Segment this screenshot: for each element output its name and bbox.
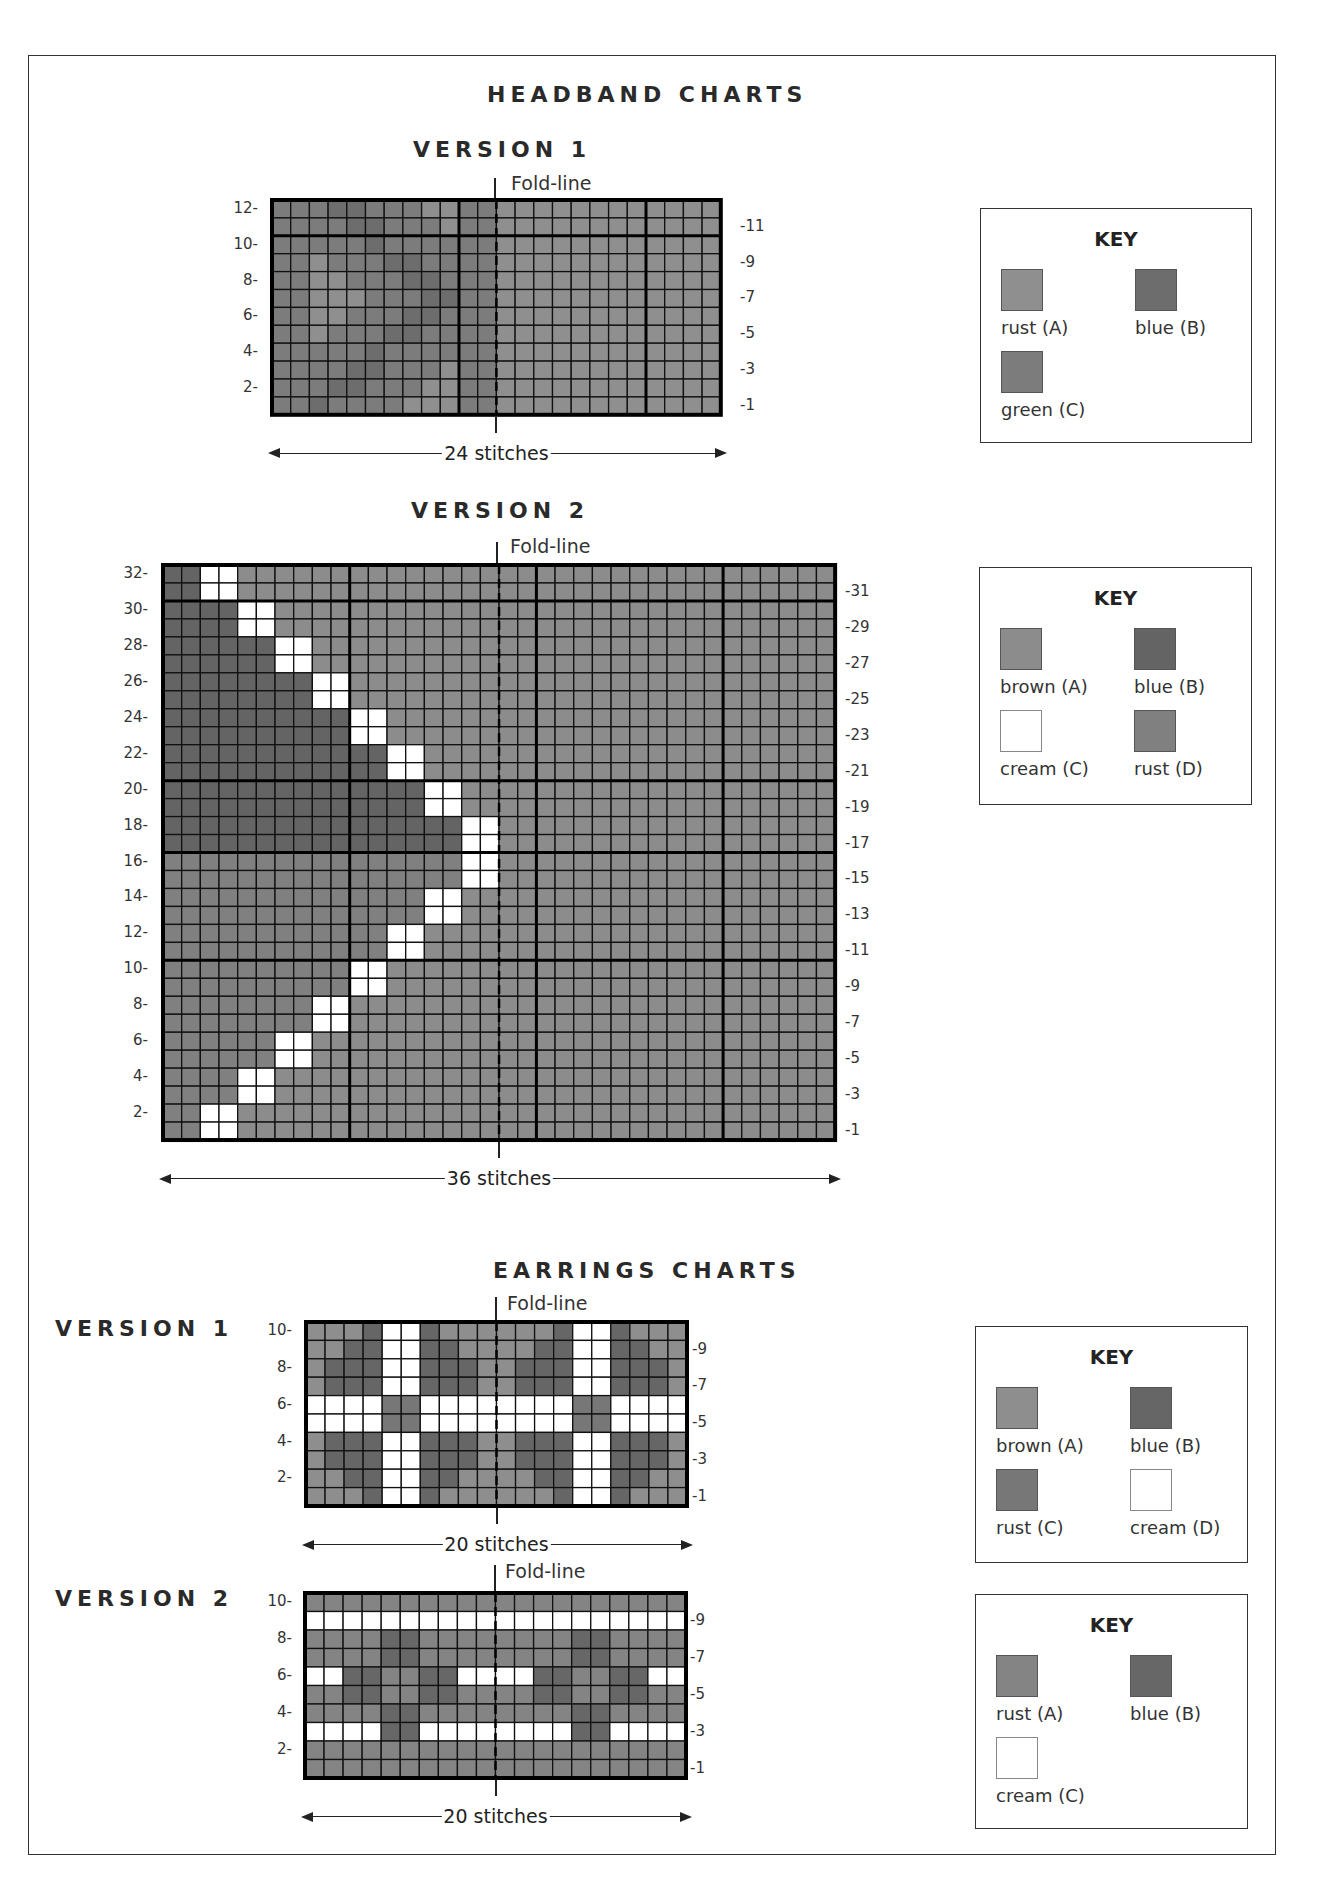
stitch-cell <box>816 996 835 1014</box>
stitch-cell <box>555 655 574 673</box>
stitch-cell <box>574 1032 593 1050</box>
stitch-cell <box>443 942 462 960</box>
stitch-cell <box>362 1667 381 1686</box>
stitch-cell <box>648 835 667 853</box>
stitch-cell <box>477 1488 496 1506</box>
stitch-cell <box>462 870 481 888</box>
stitch-cell <box>779 727 798 745</box>
stitch-cell <box>424 835 443 853</box>
stitch-cell <box>294 619 313 637</box>
stitch-cell <box>331 691 350 709</box>
stitch-cell <box>611 1340 630 1358</box>
stitch-cell <box>816 1032 835 1050</box>
stitch-cell <box>350 781 369 799</box>
stitch-cell <box>480 853 499 871</box>
stitch-cell <box>366 361 385 379</box>
stitch-cell <box>256 673 275 691</box>
stitch-cell <box>499 870 518 888</box>
stitch-cell <box>275 1068 294 1086</box>
swatch-label: blue (B) <box>1130 1703 1201 1724</box>
stitch-cell <box>306 1377 325 1395</box>
stitch-cell <box>424 565 443 583</box>
stitch-cell <box>518 673 537 691</box>
stitch-cell <box>574 781 593 799</box>
stitch-cell <box>667 1741 686 1760</box>
stitch-cell <box>683 361 702 379</box>
stitch-cell <box>424 853 443 871</box>
stitch-cell <box>275 781 294 799</box>
stitch-cell <box>462 781 481 799</box>
stitch-cell <box>592 1359 611 1377</box>
stitch-cell <box>368 619 387 637</box>
stitch-cell <box>200 799 219 817</box>
stitch-cell <box>462 727 481 745</box>
stitch-cell <box>306 1396 325 1414</box>
stitch-cell <box>403 236 422 254</box>
stitch-cell <box>648 673 667 691</box>
stitch-cell <box>536 565 555 583</box>
stitch-cell <box>387 781 406 799</box>
stitch-cell <box>384 200 403 218</box>
stitch-cell <box>291 397 310 415</box>
stitch-cell <box>592 853 611 871</box>
stitch-cell <box>590 218 609 236</box>
row-number-label: -5 <box>690 1685 705 1703</box>
stitch-cell <box>686 583 705 601</box>
stitch-cell <box>256 906 275 924</box>
color-swatch <box>1001 269 1043 311</box>
stitch-cell <box>163 924 182 942</box>
stitch-cell <box>238 637 257 655</box>
stitch-cell <box>478 200 497 218</box>
stitch-cell <box>238 870 257 888</box>
stitch-cell <box>798 763 817 781</box>
stitch-cell <box>347 343 366 361</box>
stitch-cell <box>592 799 611 817</box>
stitch-cell <box>518 870 537 888</box>
stitch-cell <box>686 924 705 942</box>
stitch-cell <box>422 325 441 343</box>
stitch-cell <box>610 1741 629 1760</box>
stitch-cell <box>443 799 462 817</box>
stitch-cell <box>294 942 313 960</box>
row-number-label: -7 <box>692 1376 707 1394</box>
stitch-cell <box>294 583 313 601</box>
stitch-cell <box>798 1086 817 1104</box>
stitch-cell <box>312 906 331 924</box>
stitch-cell <box>324 1686 343 1705</box>
stitch-cell <box>683 236 702 254</box>
stitch-cell <box>219 1122 238 1140</box>
stitch-cell <box>403 290 422 308</box>
stitch-cell <box>219 745 238 763</box>
stitch-cell <box>350 565 369 583</box>
stitch-cell <box>742 727 761 745</box>
stitch-cell <box>592 1122 611 1140</box>
stitch-cell <box>440 343 459 361</box>
stitch-cell <box>200 619 219 637</box>
stitch-cell <box>256 942 275 960</box>
stitch-cell <box>574 924 593 942</box>
stitch-cell <box>309 361 328 379</box>
stitch-cell <box>272 325 291 343</box>
stitch-cell <box>331 655 350 673</box>
stitch-cell <box>275 924 294 942</box>
stitch-cell <box>424 601 443 619</box>
stitch-cell <box>275 745 294 763</box>
stitch-cell <box>256 1068 275 1086</box>
stitch-cell <box>401 1488 420 1506</box>
swatch-label: brown (A) <box>996 1435 1084 1456</box>
stitch-cell <box>667 942 686 960</box>
stitch-cell <box>478 343 497 361</box>
stitch-cell <box>350 1068 369 1086</box>
stitch-cell <box>704 691 723 709</box>
stitch-cell <box>723 1104 742 1122</box>
stitch-cell <box>312 1050 331 1068</box>
stitch-cell <box>403 325 422 343</box>
stitch-cell <box>704 1086 723 1104</box>
stitch-cell <box>219 978 238 996</box>
stitch-cell <box>306 1432 325 1450</box>
stitch-cell <box>219 1086 238 1104</box>
stitch-cell <box>686 888 705 906</box>
stitch-cell <box>798 1014 817 1032</box>
stitch-cell <box>439 1377 458 1395</box>
stitch-cell <box>611 1104 630 1122</box>
